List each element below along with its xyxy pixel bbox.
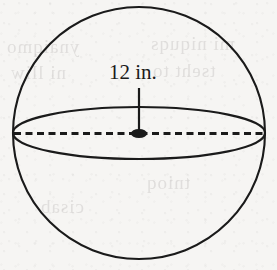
sphere-figure: ynaiqmo mi niquqs ni lliw tseht to tnioq…: [0, 0, 277, 270]
diameter-label: 12 in.: [109, 62, 157, 83]
center-point-dot: [131, 129, 147, 138]
sphere-drawing: [0, 0, 277, 270]
